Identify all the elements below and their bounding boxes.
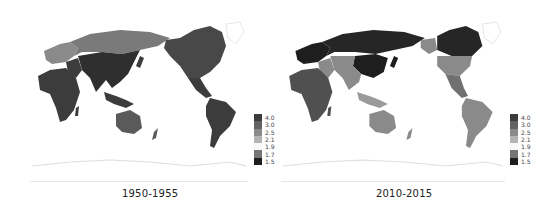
legend-swatch [510, 129, 518, 136]
legend-swatch [254, 129, 262, 136]
legend-swatch [510, 136, 518, 143]
legend-swatch [254, 136, 262, 143]
legend-row: 1.9 [254, 143, 275, 150]
choropleth-map [30, 16, 248, 176]
legend-row: 1.5 [254, 158, 275, 165]
legend-row: 1.9 [510, 143, 531, 150]
legend-row: 2.1 [254, 136, 275, 143]
legend-label: 4.0 [265, 114, 275, 121]
legend-label: 2.1 [265, 136, 275, 143]
legend-swatch [254, 121, 262, 128]
legend-row: 4.0 [254, 114, 275, 121]
world-map-1950-1955 [30, 16, 248, 176]
legend-row: 2.5 [510, 129, 531, 136]
legend-row: 2.1 [510, 136, 531, 143]
map-caption: 1950-1955 [122, 188, 178, 199]
legend-label: 1.9 [521, 143, 531, 150]
legend-row: 3.0 [254, 121, 275, 128]
legend-label: 1.7 [521, 151, 531, 158]
legend-label: 2.5 [521, 129, 531, 136]
legend-label: 1.7 [265, 151, 275, 158]
map-baseline [281, 181, 505, 182]
color-legend: 4.0 3.0 2.5 2.1 1.9 1.7 1.5 [254, 114, 275, 165]
legend-swatch [254, 143, 262, 150]
legend-row: 1.7 [510, 150, 531, 157]
color-legend: 4.0 3.0 2.5 2.1 1.9 1.7 1.5 [510, 114, 531, 165]
legend-label: 1.9 [265, 143, 275, 150]
legend-row: 2.5 [254, 129, 275, 136]
legend-label: 1.5 [265, 158, 275, 165]
legend-label: 3.0 [265, 121, 275, 128]
legend-swatch [510, 121, 518, 128]
legend-row: 4.0 [510, 114, 531, 121]
legend-swatch [254, 150, 262, 157]
legend-swatch [510, 114, 518, 121]
map-caption: 2010-2015 [376, 188, 432, 199]
legend-label: 2.5 [265, 129, 275, 136]
legend-swatch [254, 158, 262, 165]
legend-swatch [510, 150, 518, 157]
legend-swatch [510, 158, 518, 165]
legend-swatch [254, 114, 262, 121]
legend-row: 1.7 [254, 150, 275, 157]
map-panel-1950-1955: 1950-1955 4.0 3.0 2.5 2.1 1.9 1.7 1.5 [0, 0, 277, 205]
map-panel-2010-2015: 2010-2015 4.0 3.0 2.5 2.1 1.9 1.7 1.5 [277, 0, 554, 205]
world-map-2010-2015 [281, 16, 505, 176]
map-baseline [30, 181, 248, 182]
legend-row: 3.0 [510, 121, 531, 128]
legend-label: 4.0 [521, 114, 531, 121]
legend-swatch [510, 143, 518, 150]
legend-label: 3.0 [521, 121, 531, 128]
legend-label: 2.1 [521, 136, 531, 143]
legend-row: 1.5 [510, 158, 531, 165]
legend-label: 1.5 [521, 158, 531, 165]
choropleth-map [281, 16, 505, 176]
